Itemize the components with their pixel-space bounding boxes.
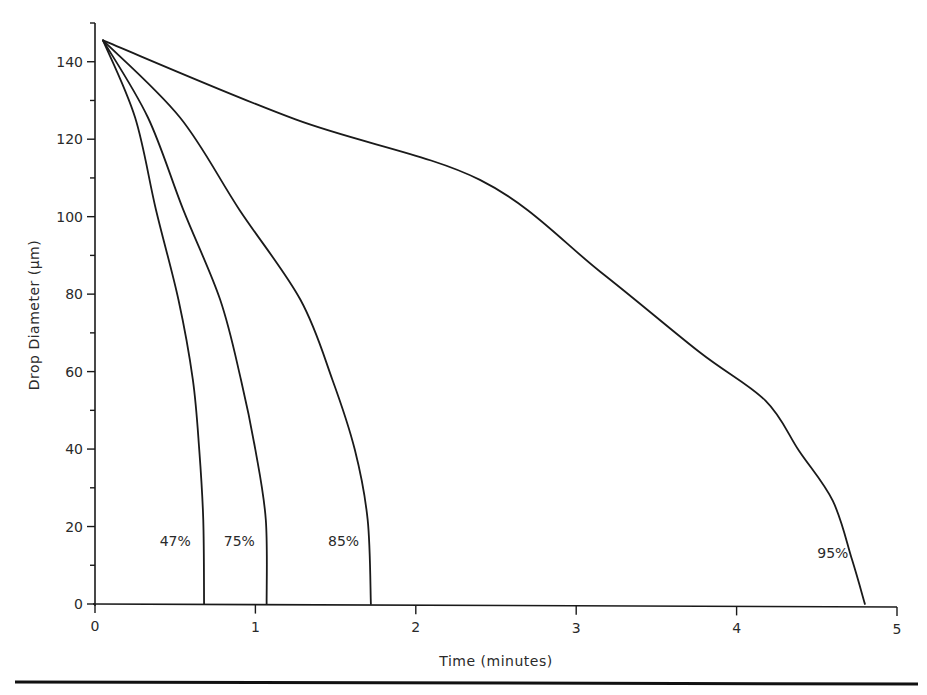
x-axis-title: Time (minutes)	[438, 653, 552, 669]
y-tick-label: 120	[56, 131, 83, 147]
series-labels: 47%75%85%95%	[160, 533, 849, 561]
x-ticks: 012345	[91, 604, 902, 637]
y-axis-title: Drop Diameter (μm)	[26, 240, 42, 390]
y-tick-label: 0	[74, 596, 83, 612]
y-tick-label: 60	[65, 364, 83, 380]
y-tick-label: 140	[56, 54, 83, 70]
x-tick-label: 5	[893, 621, 902, 637]
x-tick-label: 2	[411, 619, 420, 635]
series-label-95pct: 95%	[817, 545, 848, 561]
x-tick-label: 3	[572, 620, 581, 636]
y-tick-label: 40	[65, 441, 83, 457]
chart: 020406080100120140 012345 47%75%85%95% T…	[0, 0, 927, 695]
y-tick-label: 100	[56, 209, 83, 225]
series-label-75pct: 75%	[224, 533, 255, 549]
axes	[93, 23, 897, 607]
x-axis	[93, 604, 897, 607]
x-tick-label: 1	[251, 619, 260, 635]
y-tick-label: 80	[65, 286, 83, 302]
y-tick-label: 20	[65, 519, 83, 535]
series-curve-47pct	[103, 40, 204, 604]
series-curve-95pct	[103, 40, 865, 604]
x-tick-label: 4	[732, 620, 741, 636]
y-ticks: 020406080100120140	[56, 23, 95, 612]
series-label-85pct: 85%	[328, 533, 359, 549]
curves	[103, 40, 865, 604]
series-label-47pct: 47%	[160, 533, 191, 549]
series-curve-85pct	[103, 40, 371, 604]
x-tick-label: 0	[91, 618, 100, 634]
bottom-rule	[15, 682, 918, 684]
